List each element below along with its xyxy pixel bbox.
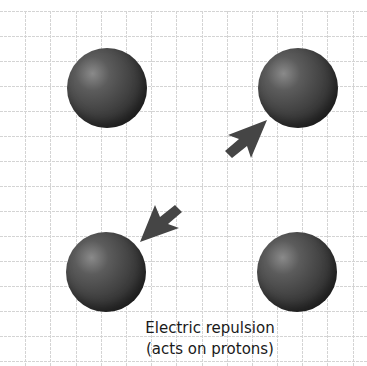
proton-top-left: [67, 48, 147, 128]
proton-bottom-left: [66, 232, 146, 312]
caption-line-1: Electric repulsion: [120, 318, 300, 339]
caption: Electric repulsion (acts on protons): [120, 318, 300, 360]
caption-line-2: (acts on protons): [120, 339, 300, 360]
force-arrow-down-left-icon: [138, 202, 184, 244]
proton-top-right: [258, 48, 338, 128]
proton-bottom-right: [257, 232, 337, 312]
force-arrow-up-right-icon: [224, 118, 270, 160]
